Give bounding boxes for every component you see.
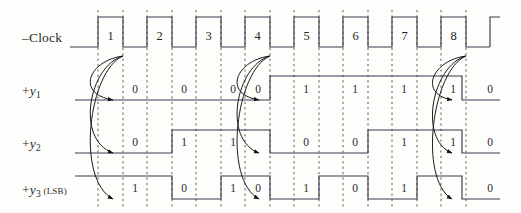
bit-value-y2-5: 1 (401, 136, 407, 148)
timing-diagram-figure: –Clock+y1+y2+y3 (LSB) 12345678 000011110… (0, 0, 521, 213)
bit-value-y1-0: 0 (132, 83, 138, 95)
bit-value-y3-0: 1 (132, 182, 138, 194)
bit-value-y2-3: 0 (303, 136, 309, 148)
bit-value-y3-2: 1 (230, 182, 236, 194)
clock-cycle-number-5: 5 (303, 29, 309, 44)
row-label-y2: +y2 (22, 136, 41, 153)
bit-value-y1-3: 0 (255, 83, 261, 95)
y1-waveform (75, 76, 500, 100)
bit-value-y2-7: 0 (487, 136, 493, 148)
bit-value-y1-7: 1 (450, 83, 456, 95)
clock-trace (70, 17, 490, 47)
bit-value-y3-1: 0 (181, 182, 187, 194)
clock-trace-tail (490, 17, 500, 47)
y2-trace (75, 130, 500, 153)
clock-cycle-number-6: 6 (352, 29, 358, 44)
bit-value-y1-4: 1 (303, 83, 309, 95)
row-label-sign-y2: + (22, 136, 30, 151)
row-label-sign-clock: – (22, 30, 29, 45)
row-label-name-clock: Clock (29, 30, 62, 45)
y2-waveform (75, 130, 500, 153)
y1-trace (75, 76, 500, 100)
bit-value-y2-6: 1 (450, 136, 456, 148)
row-label-y3: +y3 (LSB) (22, 182, 67, 199)
row-label-suffix-y3: (LSB) (41, 186, 67, 196)
clock-cycle-number-2: 2 (156, 29, 162, 44)
clock-waveform (70, 17, 500, 47)
row-label-subscript-y1: 1 (36, 90, 41, 100)
bit-value-y3-4: 1 (303, 182, 309, 194)
clock-edge-gridlines (98, 10, 466, 208)
bit-value-y2-4: 0 (352, 136, 358, 148)
bit-value-y3-6: 1 (401, 182, 407, 194)
bit-value-y2-0: 0 (132, 136, 138, 148)
bit-value-y2-2: 1 (230, 136, 236, 148)
bit-value-y1-2: 0 (230, 83, 236, 95)
y3-trace (75, 176, 500, 199)
row-label-y1: +y1 (22, 83, 41, 100)
bit-value-y3-5: 0 (352, 182, 358, 194)
clock-cycle-number-4: 4 (254, 29, 260, 44)
y3-waveform (75, 176, 500, 199)
row-label-clock: –Clock (22, 30, 62, 46)
causality-arrow-0-0 (90, 56, 123, 100)
clock-cycle-number-3: 3 (205, 29, 211, 44)
causality-arrow-1-2 (237, 56, 270, 199)
bit-value-y3-7: 0 (487, 182, 493, 194)
row-label-sign-y3: + (22, 182, 30, 197)
bit-value-y2-1: 1 (181, 136, 187, 148)
clock-cycle-number-8: 8 (450, 29, 456, 44)
causality-arrow-1-0 (237, 56, 270, 100)
causality-arrow-2-2 (432, 56, 466, 199)
bit-value-y1-6: 1 (401, 83, 407, 95)
row-label-subscript-y2: 2 (36, 143, 41, 153)
bit-value-y1-8: 0 (487, 83, 493, 95)
bit-value-y1-1: 0 (181, 83, 187, 95)
clock-cycle-number-7: 7 (401, 29, 407, 44)
row-label-sign-y1: + (22, 83, 30, 98)
causality-arrow-0-2 (90, 56, 123, 199)
bit-value-y1-5: 1 (352, 83, 358, 95)
bit-value-y3-3: 0 (255, 182, 261, 194)
clock-cycle-number-1: 1 (107, 29, 113, 44)
